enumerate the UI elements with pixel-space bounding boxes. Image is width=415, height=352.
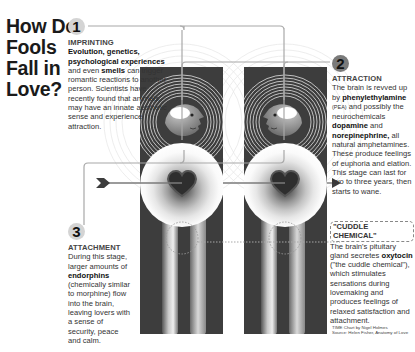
stage-2-attraction: ATTRACTION The brain is revved up by phe… — [332, 74, 412, 196]
stage-1-badge: 1 — [68, 18, 85, 35]
stage-2-heading: ATTRACTION — [332, 74, 412, 83]
right-figure — [238, 67, 332, 335]
credits: TIME Chart by Nigel Holmes Source: Helen… — [332, 325, 415, 336]
stage-1-heading: IMPRINTING — [68, 38, 168, 47]
stage-2-badge: 2 — [332, 55, 349, 72]
stage-3-badge: 3 — [68, 223, 85, 240]
stage-1-imprinting: IMPRINTING Evolution, genetics, psycholo… — [68, 38, 168, 131]
page-title: How Do Fools Fall in Love? — [6, 16, 77, 100]
cuddle-chemical: "CUDDLE CHEMICAL" The brain's pituitary … — [330, 221, 414, 325]
stage-3-attachment: ATTACHMENT During this stage, larger amo… — [68, 243, 132, 345]
cuddle-chemical-heading: "CUDDLE CHEMICAL" — [330, 221, 414, 242]
stage-3-heading: ATTACHMENT — [68, 243, 132, 252]
arrow-fletching — [96, 178, 110, 188]
